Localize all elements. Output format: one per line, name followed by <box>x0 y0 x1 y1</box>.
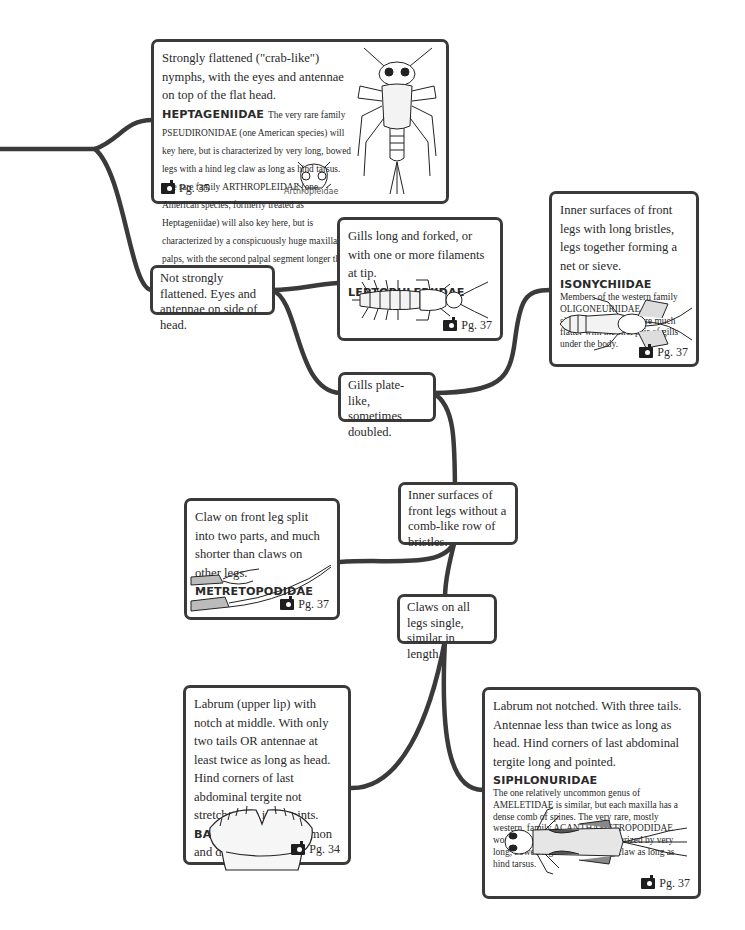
camera-icon <box>280 599 294 610</box>
page-number: Pg. 37 <box>657 345 688 360</box>
node-isonychiidae: Inner surfaces of front legs with long b… <box>549 191 699 367</box>
node-lead: Strongly flattened ("crab-like") nymphs,… <box>162 51 344 102</box>
leptophlebiid-nymph-illustration <box>350 278 490 323</box>
family-name: ISONYCHIIDAE <box>560 278 651 291</box>
edge-claws-single-to-siphlonuridae <box>444 640 483 790</box>
page-number: Pg. 37 <box>461 318 492 333</box>
edge-not-flattened-to-gills-plate <box>272 290 340 393</box>
node-siphlonuridae: Labrum not notched. With three tails. An… <box>482 687 701 899</box>
node-gills-plate: Gills plate-like, sometimes doubled. <box>338 372 436 422</box>
edge-not-flattened-to-leptophlebiidae <box>272 283 338 290</box>
node-lead: Inner surfaces of front legs without a c… <box>408 488 506 549</box>
node-no-comb: Inner surfaces of front legs without a c… <box>398 482 518 545</box>
node-leptophlebiidae: Gills long and forked, or with one or mo… <box>337 217 503 341</box>
page-reference: Pg. 34 <box>291 842 340 857</box>
node-lead: Gills long and forked, or with one or mo… <box>348 229 484 280</box>
camera-icon <box>641 878 655 889</box>
family-name: SIPHLONURIDAE <box>493 774 597 787</box>
camera-icon <box>639 347 653 358</box>
page-number: Pg. 34 <box>309 842 340 857</box>
node-baetidae: Labrum (upper lip) with notch at middle.… <box>183 685 351 865</box>
page-number: Pg. 37 <box>298 597 329 612</box>
notched-labrum-illustration <box>206 804 316 874</box>
node-claws-single: Claws on all legs single, similar in len… <box>397 594 497 644</box>
family-name: HEPTAGENIIDAE <box>162 108 264 121</box>
camera-icon <box>291 844 305 855</box>
camera-icon <box>443 320 457 331</box>
page-reference: Pg. 35 <box>161 181 210 196</box>
edge-claws-single-to-baetidae <box>350 640 445 788</box>
node-metretopodidae: Claw on front leg split into two parts, … <box>184 498 340 620</box>
isonychiid-nymph-illustration <box>558 296 694 352</box>
edge-root-to-not-flattened <box>95 149 152 290</box>
node-not-flattened: Not strongly flattened. Eyes and antenna… <box>150 265 275 315</box>
page-reference: Pg. 37 <box>443 318 492 333</box>
page-reference: Pg. 37 <box>641 876 690 891</box>
page-number: Pg. 37 <box>659 876 690 891</box>
camera-icon <box>161 183 175 194</box>
page-reference: Pg. 37 <box>639 345 688 360</box>
node-heptageniidae: Strongly flattened ("crab-like") nymphs,… <box>151 39 449 204</box>
node-lead: Labrum not notched. With three tails. An… <box>493 699 681 769</box>
page-reference: Pg. 37 <box>280 597 329 612</box>
siphlonurid-nymph-illustration <box>499 806 689 876</box>
edge-root-to-heptageniidae <box>95 120 152 149</box>
heptageniid-nymph-illustration <box>354 46 440 196</box>
page-number: Pg. 35 <box>179 181 210 196</box>
node-lead: Inner surfaces of front legs with long b… <box>560 203 677 273</box>
illustration-caption: Arthropleidae <box>284 187 338 196</box>
